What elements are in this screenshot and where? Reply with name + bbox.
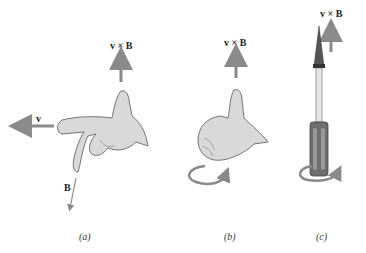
panel-c (300, 26, 338, 181)
hand-pointing (58, 91, 149, 172)
vxb-label-b: v × B (224, 37, 246, 48)
b-label: B (64, 182, 71, 193)
caption-b: (b) (224, 231, 236, 242)
screwdriver-handle (310, 122, 328, 176)
panel-b (189, 55, 268, 184)
vxb-label-a: v × B (110, 40, 132, 51)
screwdriver-shaft (316, 68, 322, 122)
v-label: v (36, 113, 41, 124)
caption-a: (a) (79, 231, 91, 242)
vxb-label-c: v × B (320, 8, 342, 19)
thumbs-up-hand (198, 89, 268, 160)
panel-a (20, 58, 148, 208)
caption-c: (c) (316, 231, 327, 242)
rotation-arrow-b (189, 166, 226, 184)
figure-canvas (0, 0, 366, 253)
screw-tip (314, 26, 324, 66)
